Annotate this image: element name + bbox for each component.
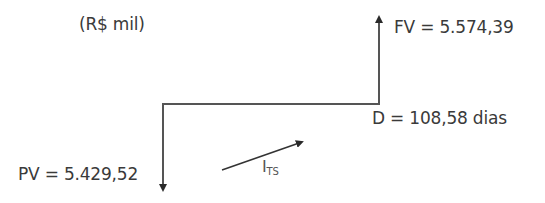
- unit-label: (R$ mil): [79, 14, 145, 34]
- present-value-label: PV = 5.429,52: [18, 164, 138, 184]
- future-value-label: FV = 5.574,39: [394, 17, 514, 37]
- duration-label: D = 108,58 dias: [372, 108, 507, 128]
- rate-subscript: TS: [267, 166, 279, 177]
- rate-label: ITS: [262, 157, 279, 177]
